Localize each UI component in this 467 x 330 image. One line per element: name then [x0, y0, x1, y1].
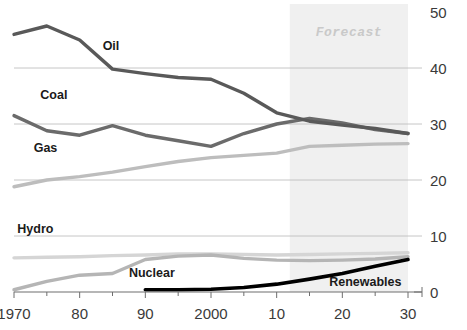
x-tick-label-1980: 80 — [71, 305, 88, 322]
series-label-coal: Coal — [40, 88, 67, 102]
y-tick-label-10: 10 — [430, 228, 447, 245]
series-label-oil: Oil — [103, 39, 120, 53]
series-label-hydro: Hydro — [17, 222, 53, 236]
chart-canvas: 01020304050 197080902000102030 OilCoalGa… — [0, 0, 467, 330]
series-label-nuclear: Nuclear — [129, 266, 175, 280]
y-axis-tick-labels: 01020304050 — [430, 4, 447, 301]
x-tick-label-2020: 20 — [334, 305, 351, 322]
x-tick-label-1990: 90 — [137, 305, 154, 322]
y-tick-label-40: 40 — [430, 60, 447, 77]
series-label-gas: Gas — [34, 141, 58, 155]
forecast-label-text: Forecast — [316, 25, 382, 40]
x-tick-label-1970: 1970 — [0, 305, 31, 322]
forecast-annotation-label: Forecast — [316, 25, 382, 40]
energy-mix-line-chart: 01020304050 197080902000102030 OilCoalGa… — [0, 0, 467, 330]
x-axis-tick-labels: 197080902000102030 — [0, 305, 416, 322]
y-tick-label-0: 0 — [430, 284, 438, 301]
series-label-renewables: Renewables — [329, 275, 401, 289]
x-tick-label-2010: 10 — [268, 305, 285, 322]
x-tick-label-2000: 2000 — [194, 305, 227, 322]
y-tick-label-20: 20 — [430, 172, 447, 189]
x-tick-label-2030: 30 — [400, 305, 417, 322]
y-tick-label-30: 30 — [430, 116, 447, 133]
y-tick-label-50: 50 — [430, 4, 447, 21]
